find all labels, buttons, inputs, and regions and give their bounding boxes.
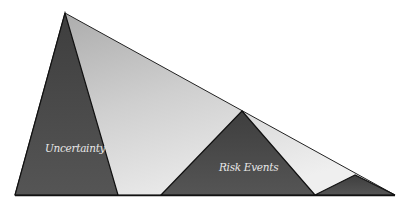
uncertainty-label: Uncertainty: [45, 142, 105, 154]
diagram-canvas: [0, 0, 409, 209]
risk-events-label: Risk Events: [219, 161, 278, 173]
